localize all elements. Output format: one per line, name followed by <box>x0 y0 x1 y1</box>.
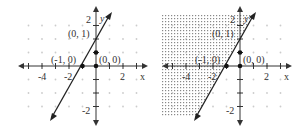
point-label: (0, 0) <box>99 54 121 66</box>
arrowhead-icon <box>105 12 112 20</box>
x-tick-label: -2 <box>64 71 72 82</box>
x-tick-label: -4 <box>182 71 190 82</box>
point-neg1-0 <box>224 64 229 69</box>
point-label: (0, 1) <box>212 28 234 40</box>
y-axis-label: y <box>99 13 105 24</box>
point-neg1-0 <box>80 64 85 69</box>
graph-right: (0, 1) (-1, 0) (0, 0) -4 -2 2 x 2 -2 y <box>144 0 296 128</box>
point-0-0 <box>94 64 99 69</box>
y-tick-label: -2 <box>82 105 90 116</box>
y-axis-label: y <box>243 13 249 24</box>
coordinate-plane-right: (0, 1) (-1, 0) (0, 0) -4 -2 2 x 2 -2 y <box>144 0 304 128</box>
point-0-1 <box>238 50 243 55</box>
point-0-0 <box>238 64 243 69</box>
point-label: (0, 1) <box>68 28 90 40</box>
point-label: (-1, 0) <box>51 54 76 66</box>
arrowhead-icon <box>50 113 57 121</box>
x-tick-label: -4 <box>38 71 46 82</box>
y-tick-label: 2 <box>230 14 235 25</box>
x-tick-label: 2 <box>120 71 125 82</box>
x-tick-label: 2 <box>264 71 269 82</box>
x-tick-label: -2 <box>208 71 216 82</box>
x-axis-label: x <box>284 71 289 82</box>
coordinate-plane-left: (0, 1) (-1, 0) (0, 0) -4 -2 2 x 2 -2 y <box>0 0 152 128</box>
point-label: (0, 0) <box>243 54 265 66</box>
graph-left: (0, 1) (-1, 0) (0, 0) -4 -2 2 x 2 -2 y <box>0 0 152 128</box>
point-0-1 <box>94 50 99 55</box>
point-label: (-1, 0) <box>195 54 220 66</box>
y-tick-label: -2 <box>226 105 234 116</box>
y-tick-label: 2 <box>86 14 91 25</box>
